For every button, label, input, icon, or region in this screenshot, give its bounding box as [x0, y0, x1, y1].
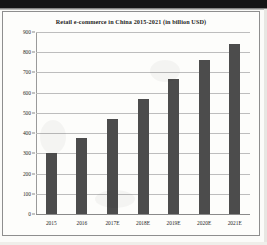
y-axis-tick-label: 800: [23, 49, 31, 55]
y-axis-line: [36, 32, 37, 214]
bar: [138, 99, 149, 214]
bar: [46, 153, 57, 214]
page-right-edge: [264, 9, 267, 245]
gridline: [36, 93, 250, 94]
y-axis-tick-label: 100: [23, 191, 31, 197]
x-axis-tick-label: 2015: [46, 220, 57, 226]
chart-title: Retail e-commerce in China 2015-2021 (in…: [3, 18, 259, 25]
x-axis-tick-label: 2017E: [105, 220, 119, 226]
gridline: [36, 52, 250, 53]
y-axis-tick-mark: [32, 214, 35, 215]
y-axis-tick-mark: [32, 153, 35, 154]
gridline: [36, 32, 250, 33]
bar: [199, 60, 210, 214]
y-axis-tick-mark: [32, 133, 35, 134]
y-axis-tick-mark: [32, 173, 35, 174]
y-axis-tick-label: 700: [23, 69, 31, 75]
y-axis-tick-mark: [32, 52, 35, 53]
y-axis-tick-mark: [32, 112, 35, 113]
gridline: [36, 72, 250, 73]
y-axis-tick-label: 200: [23, 171, 31, 177]
y-axis-tick-mark: [32, 72, 35, 73]
bar: [107, 119, 118, 214]
y-axis-tick-label: 600: [23, 90, 31, 96]
y-axis-tick-label: 300: [23, 150, 31, 156]
y-axis-tick-mark: [32, 92, 35, 93]
y-axis-tick-label: 400: [23, 130, 31, 136]
y-axis-tick-mark: [32, 32, 35, 33]
bar: [76, 138, 87, 214]
scan-top-band: [0, 0, 267, 8]
y-axis-tick-label: 500: [23, 110, 31, 116]
gridline: [36, 214, 250, 215]
plot-area: 0100200300400500600700800900 20152016201…: [36, 32, 250, 214]
y-axis-tick-label: 0: [28, 211, 31, 217]
bar: [168, 79, 179, 214]
bar: [229, 44, 240, 214]
x-axis-tick-label: 2020E: [197, 220, 211, 226]
scan-top-band-fade: [0, 8, 267, 10]
x-axis-tick-label: 2019E: [167, 220, 181, 226]
x-axis-tick-label: 2018E: [136, 220, 150, 226]
x-axis-tick-label: 2016: [76, 220, 87, 226]
y-axis-tick-label: 900: [23, 29, 31, 35]
scanned-page: Retail e-commerce in China 2015-2021 (in…: [0, 0, 267, 245]
x-axis-tick-label: 2021E: [228, 220, 242, 226]
y-axis-tick-mark: [32, 193, 35, 194]
chart-figure: Retail e-commerce in China 2015-2021 (in…: [2, 11, 260, 236]
